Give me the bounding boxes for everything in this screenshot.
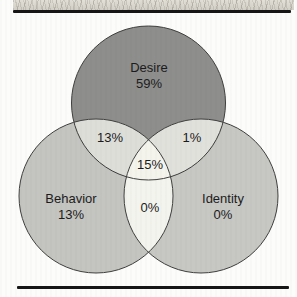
behavior-identity-value: 0% bbox=[141, 200, 160, 215]
desire-value: 59% bbox=[136, 76, 162, 91]
desire-behavior-value: 13% bbox=[97, 130, 123, 145]
center-value: 15% bbox=[137, 157, 163, 172]
identity-value: 0% bbox=[214, 207, 233, 222]
behavior-value: 13% bbox=[58, 207, 84, 222]
desire-label: Desire bbox=[130, 60, 168, 75]
desire-identity-value: 1% bbox=[183, 130, 202, 145]
behavior-label: Behavior bbox=[45, 191, 97, 206]
scanned-figure-page: Desire 59% 13% 1% 15% 0% Behavior 13% Id… bbox=[0, 0, 297, 297]
identity-label: Identity bbox=[202, 191, 244, 206]
venn-diagram: Desire 59% 13% 1% 15% 0% Behavior 13% Id… bbox=[0, 0, 297, 297]
